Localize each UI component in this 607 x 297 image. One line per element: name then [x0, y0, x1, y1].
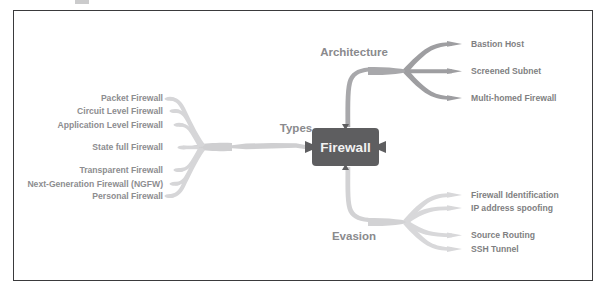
branch-evasion-tip-1: [447, 192, 462, 198]
leaf-label-multi-homed-firewall: Multi-homed Firewall: [471, 93, 556, 103]
central-node-label: Firewall: [320, 140, 370, 155]
branch-types-tip-1: [165, 97, 176, 101]
leaf-label-personal-firewall: Personal Firewall: [92, 191, 163, 201]
branch-evasion: Evasion Firewall Identification IP addre…: [332, 167, 559, 254]
leaf-label-next-generation-firewall: Next-Generation Firewall (NGFW): [27, 179, 163, 189]
branch-types-tip-4: [178, 145, 189, 149]
central-node-firewall[interactable]: Firewall: [305, 124, 386, 170]
branch-architecture-rib-3: [403, 70, 452, 100]
leaf-label-ip-address-spoofing: IP address spoofing: [471, 203, 553, 213]
branch-types-rib-7: [170, 148, 205, 198]
branch-types: Types Packet Firewall Circuit Level Fire…: [27, 93, 312, 201]
branch-evasion-tip-4: [447, 246, 462, 252]
branch-architecture-tip-2: [447, 68, 462, 74]
branch-architecture-rib-1: [403, 42, 452, 72]
branch-types-tip-6: [170, 182, 181, 186]
branch-architecture: Architecture Bastion Host Screened Subne…: [320, 39, 556, 127]
leaf-label-source-routing: Source Routing: [471, 230, 535, 240]
leaf-label-packet-firewall: Packet Firewall: [101, 93, 163, 103]
branch-types-tip-2: [170, 109, 181, 113]
branch-types-tip-5: [174, 168, 185, 172]
branch-types-trunk: [232, 143, 308, 150]
branch-architecture-rib-2: [405, 69, 452, 73]
branch-types-tip-3: [174, 123, 185, 127]
central-node-nub-left: [305, 141, 312, 153]
leaf-label-bastion-host: Bastion Host: [471, 39, 524, 49]
leaf-label-ssh-tunnel: SSH Tunnel: [471, 244, 519, 254]
branch-architecture-trunk: [345, 67, 368, 127]
branch-label-architecture: Architecture: [320, 46, 388, 58]
branch-types-tip-7: [165, 194, 176, 198]
branch-evasion-trunk: [345, 167, 368, 222]
leaf-label-state-full-firewall: State full Firewall: [92, 142, 163, 152]
leaf-label-application-level-firewall: Application Level Firewall: [57, 120, 163, 130]
central-node-nub-right: [379, 141, 386, 153]
branch-evasion-tip-2: [447, 205, 462, 211]
branch-label-types: Types: [280, 122, 312, 134]
leaf-label-screened-subnet: Screened Subnet: [471, 66, 541, 76]
leaf-label-transparent-firewall: Transparent Firewall: [79, 165, 163, 175]
branch-evasion-tip-3: [447, 232, 462, 238]
branch-architecture-tip-1: [447, 41, 462, 47]
branch-label-evasion: Evasion: [332, 230, 376, 242]
branch-architecture-tip-3: [447, 95, 462, 101]
mind-map-canvas: Types Packet Firewall Circuit Level Fire…: [0, 0, 607, 297]
leaf-label-firewall-identification: Firewall Identification: [471, 190, 559, 200]
leaf-label-circuit-level-firewall: Circuit Level Firewall: [77, 106, 163, 116]
